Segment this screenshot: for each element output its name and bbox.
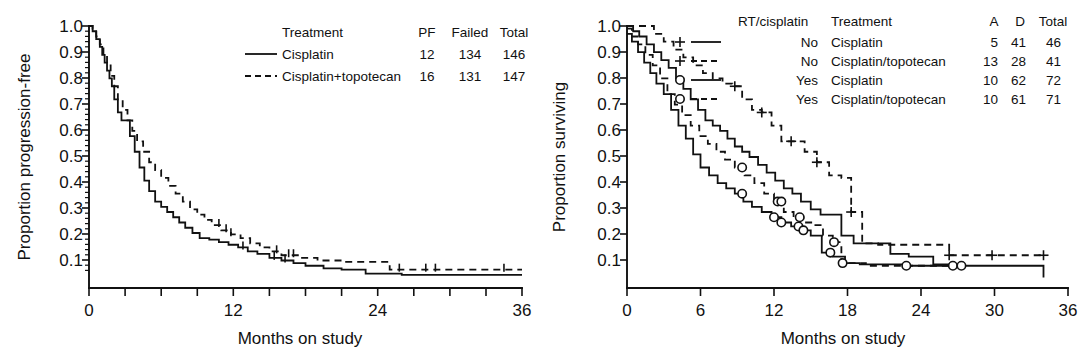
legend-value-total: 71	[1046, 92, 1061, 107]
y-tick: 1.0	[59, 17, 83, 36]
right-y-tick-labels: 1.0 0.9 0.8 0.7 0.6 0.5 0.4 0.3 0.2 0.1	[597, 17, 621, 270]
legend-row-4: Yes Cisplatin/topotecan 10 61 71	[676, 92, 1061, 107]
left-x-ticks	[89, 288, 522, 296]
x-tick: 36	[513, 301, 532, 320]
legend-value-total: 72	[1046, 73, 1061, 88]
legend-label-treatment: Cisplatin/topotecan	[831, 92, 946, 107]
legend-value-rt: No	[801, 35, 818, 50]
curve-cisplatin-topotecan-pf	[89, 26, 522, 270]
y-tick: 0.2	[59, 225, 83, 244]
y-tick: 0.8	[597, 69, 621, 88]
y-tick: 1.0	[597, 17, 621, 36]
plus-marker-icon	[675, 37, 685, 47]
y-tick: 0.8	[59, 69, 83, 88]
y-tick: 0.3	[597, 199, 621, 218]
y-tick: 0.5	[59, 147, 83, 166]
x-tick: 0	[84, 301, 93, 320]
y-tick: 0.6	[59, 121, 83, 140]
legend-value-d: 28	[1011, 54, 1026, 69]
left-censor-marks	[219, 219, 504, 272]
left-x-axis-label: Months on study	[238, 329, 363, 348]
panel-overall-survival: Proportion surviving 1.0 0.9 0.8 0.7 0.6…	[543, 0, 1085, 357]
right-legend: RT/cisplatin Treatment A D Total No Cisp…	[675, 14, 1067, 107]
kaplan-meier-figure: Proportion progression-free 1.0 0.9 0.8 …	[0, 0, 1085, 357]
legend-value-total: 46	[1046, 35, 1061, 50]
left-legend: Treatment PF Failed Total Cisplatin 12 1…	[245, 25, 528, 84]
y-tick: 0.9	[597, 43, 621, 62]
legend-label-treatment: Cisplatin	[831, 35, 883, 50]
legend-label-treatment: Cisplatin/topotecan	[831, 54, 946, 69]
right-censor-marks	[730, 81, 1049, 270]
legend-value-rt: Yes	[796, 73, 818, 88]
y-tick: 0.1	[59, 251, 83, 270]
legend-label-treatment: Cisplatin	[831, 73, 883, 88]
left-y-tick-labels: 1.0 0.9 0.8 0.7 0.6 0.5 0.4 0.3 0.2 0.1	[59, 17, 83, 270]
right-x-ticks	[627, 288, 1068, 296]
legend-value-a: 5	[990, 35, 998, 50]
x-tick: 24	[912, 301, 931, 320]
legend-value-d: 62	[1011, 73, 1026, 88]
legend-value-failed: 131	[459, 69, 482, 84]
x-tick: 30	[985, 301, 1004, 320]
circle-marker-icon	[676, 76, 684, 84]
legend-header-rt: RT/cisplatin	[738, 14, 808, 29]
x-tick: 18	[838, 301, 857, 320]
right-x-tick-labels: 0 6 12 18 24 30 36	[622, 301, 1077, 320]
y-tick: 0.4	[597, 173, 621, 192]
y-tick: 0.1	[597, 251, 621, 270]
legend-value-pf: 16	[419, 69, 434, 84]
circle-marker-icon	[676, 95, 684, 103]
legend-value-d: 61	[1011, 92, 1026, 107]
y-tick: 0.2	[597, 225, 621, 244]
curve-cisplatin-pf	[89, 26, 522, 275]
y-tick: 0.6	[597, 121, 621, 140]
x-tick: 36	[1059, 301, 1078, 320]
legend-value-total: 147	[503, 69, 526, 84]
right-y-ticks	[620, 26, 627, 260]
y-tick: 0.7	[597, 95, 621, 114]
legend-header-treatment: Treatment	[282, 25, 343, 40]
x-tick: 12	[765, 301, 784, 320]
right-plot-svg: Proportion surviving 1.0 0.9 0.8 0.7 0.6…	[543, 0, 1085, 357]
left-x-tick-labels: 0 12 24 36	[84, 301, 531, 320]
x-tick: 0	[622, 301, 631, 320]
legend-value-a: 13	[983, 54, 998, 69]
legend-value-total: 146	[503, 47, 526, 62]
legend-value-d: 41	[1011, 35, 1026, 50]
legend-header-pf: PF	[418, 25, 435, 40]
right-y-axis-label: Proportion surviving	[550, 82, 569, 232]
left-plot-svg: Proportion progression-free 1.0 0.9 0.8 …	[0, 0, 542, 357]
legend-value-failed: 134	[459, 47, 482, 62]
legend-label-cisplatin-topotecan: Cisplatin+topotecan	[282, 69, 401, 84]
legend-header-treatment: Treatment	[831, 14, 892, 29]
left-y-ticks	[82, 26, 89, 260]
legend-row-1: No Cisplatin 5 41 46	[675, 35, 1061, 50]
legend-value-pf: 12	[419, 47, 434, 62]
legend-header-total: Total	[500, 25, 529, 40]
legend-value-a: 10	[983, 92, 998, 107]
legend-header-failed: Failed	[452, 25, 489, 40]
x-tick: 6	[696, 301, 705, 320]
y-tick: 0.4	[59, 173, 83, 192]
legend-value-rt: No	[801, 54, 818, 69]
y-tick: 0.9	[59, 43, 83, 62]
panel-progression-free: Proportion progression-free 1.0 0.9 0.8 …	[0, 0, 542, 357]
left-y-axis-label: Proportion progression-free	[15, 54, 34, 261]
legend-value-total: 41	[1046, 54, 1061, 69]
legend-label-cisplatin: Cisplatin	[282, 47, 334, 62]
legend-header-total: Total	[1039, 14, 1068, 29]
legend-value-rt: Yes	[796, 92, 818, 107]
legend-row-2: No Cisplatin/topotecan 13 28 41	[675, 54, 1061, 69]
x-tick: 12	[224, 301, 243, 320]
right-x-axis-label: Months on study	[781, 329, 906, 348]
legend-header-d: D	[1015, 14, 1025, 29]
x-tick: 24	[368, 301, 387, 320]
y-tick: 0.7	[59, 95, 83, 114]
legend-header-a: A	[989, 14, 998, 29]
y-tick: 0.5	[597, 147, 621, 166]
y-tick: 0.3	[59, 199, 83, 218]
legend-value-a: 10	[983, 73, 998, 88]
